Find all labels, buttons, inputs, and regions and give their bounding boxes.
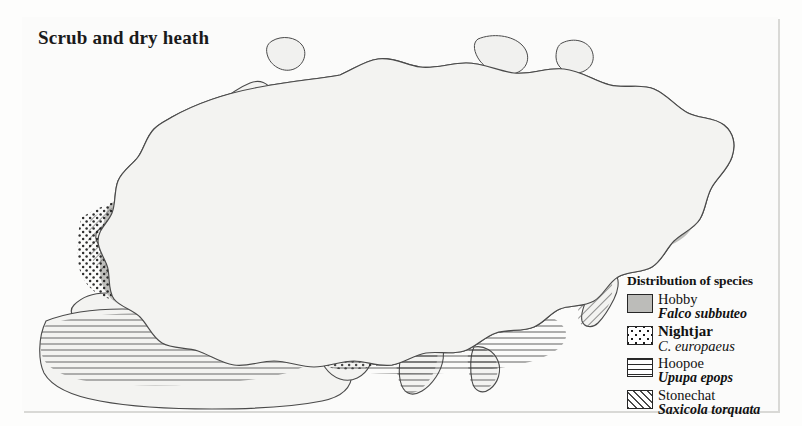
swatch-stonechat-diagonal-hatch <box>627 390 653 409</box>
species-latin-name: Saxicola torquata <box>658 403 760 417</box>
swatch-hobby-solid-gray <box>627 294 653 313</box>
legend: Distribution of species Hobby Falco subb… <box>627 273 799 420</box>
species-latin-name: Upupa epops <box>658 371 733 385</box>
legend-title: Distribution of species <box>627 273 799 289</box>
legend-item-nightjar[interactable]: Nightjar C. europaeus <box>627 324 799 356</box>
figure-frame: Scrub and dry heath Distribution of spec… <box>22 17 778 411</box>
species-latin-name: Falco subbuteo <box>658 307 747 321</box>
species-common-name: Nightjar <box>658 324 735 339</box>
swatch-nightjar-dots <box>627 326 653 345</box>
page-title: Scrub and dry heath <box>38 27 209 49</box>
species-common-name: Hobby <box>658 292 747 307</box>
species-common-name: Stonechat <box>658 388 760 403</box>
legend-item-hobby[interactable]: Hobby Falco subbuteo <box>627 292 799 324</box>
swatch-hoopoe-horizontal-lines <box>627 358 653 377</box>
figure-root: Scrub and dry heath Distribution of spec… <box>0 0 802 426</box>
species-common-name: Hoopoe <box>658 356 733 371</box>
legend-item-stonechat[interactable]: Stonechat Saxicola torquata <box>627 388 799 420</box>
species-latin-name: C. europaeus <box>658 339 735 354</box>
legend-item-hoopoe[interactable]: Hoopoe Upupa epops <box>627 356 799 388</box>
